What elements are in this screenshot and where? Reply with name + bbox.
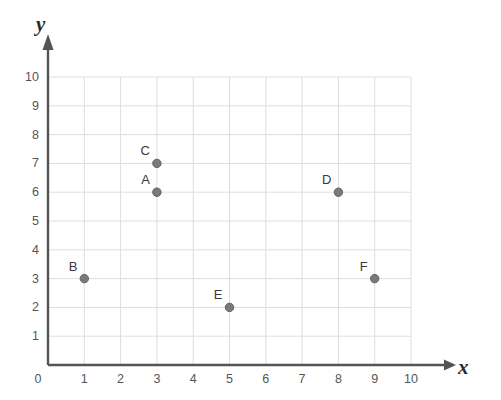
x-axis-tick-label: 9 xyxy=(371,373,378,386)
y-axis-tick-label: 7 xyxy=(32,157,39,170)
data-point-marker xyxy=(371,274,379,282)
data-point-marker xyxy=(334,188,342,196)
x-axis-tick-label: 8 xyxy=(335,373,342,386)
y-axis-tick-label: 1 xyxy=(32,330,39,343)
x-axis-tick-label: 0 xyxy=(35,373,42,386)
data-point-marker xyxy=(80,274,88,282)
x-axis-arrow-icon xyxy=(444,360,456,371)
y-axis-tick-label: 8 xyxy=(32,128,39,141)
y-axis-tick-label: 10 xyxy=(25,71,39,84)
y-axis-arrow-icon xyxy=(43,34,54,50)
x-axis-label: x xyxy=(458,357,469,378)
data-point-marker xyxy=(225,303,233,311)
x-axis-tick-label: 5 xyxy=(226,373,233,386)
coordinate-plane-figure: y x 01234567891012345678910 ABCDEF xyxy=(0,0,501,400)
grid-lines xyxy=(48,77,411,365)
plot-canvas xyxy=(0,0,501,400)
data-point-label: C xyxy=(141,144,150,157)
y-axis-tick-label: 3 xyxy=(32,272,39,285)
axes xyxy=(43,34,457,371)
y-axis-tick-label: 2 xyxy=(32,301,39,314)
x-axis-tick-label: 3 xyxy=(153,373,160,386)
y-axis-tick-label: 4 xyxy=(32,244,39,257)
y-axis-tick-label: 9 xyxy=(32,100,39,113)
x-axis-tick-label: 2 xyxy=(117,373,124,386)
data-point-label: A xyxy=(141,173,150,186)
x-axis-tick-label: 7 xyxy=(299,373,306,386)
data-point-label: D xyxy=(322,173,331,186)
x-axis-tick-label: 1 xyxy=(81,373,88,386)
y-axis-label: y xyxy=(36,14,45,35)
y-axis-tick-label: 5 xyxy=(32,215,39,228)
data-point-marker xyxy=(153,159,161,167)
x-axis-tick-label: 6 xyxy=(262,373,269,386)
data-point-label: F xyxy=(360,260,368,273)
data-point-marker xyxy=(153,188,161,196)
x-axis-tick-label: 4 xyxy=(190,373,197,386)
y-axis-tick-label: 6 xyxy=(32,186,39,199)
data-point-label: B xyxy=(69,260,78,273)
data-point-label: E xyxy=(214,288,223,301)
x-axis-tick-label: 10 xyxy=(404,373,418,386)
